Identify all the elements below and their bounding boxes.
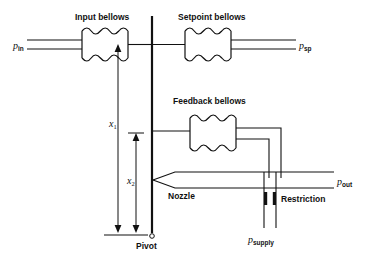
pivot-point <box>150 234 155 239</box>
setpoint-bellows-body <box>185 28 231 61</box>
input-bellows-body <box>82 28 128 61</box>
feedback-bellows-group: Feedback bellows <box>152 96 281 178</box>
input-bellows-group: Input bellows pin <box>12 12 152 61</box>
pneumatic-controller-diagram: Input bellows pin Setpoint bellows psp F… <box>0 0 366 254</box>
diagram-canvas: Input bellows pin Setpoint bellows psp F… <box>0 0 366 254</box>
dimension-x2-group: x2 <box>126 133 144 233</box>
p-out-label: pout <box>336 176 353 188</box>
p-in-label: pin <box>12 40 24 52</box>
setpoint-bellows-group: Setpoint bellows psp <box>152 12 312 61</box>
x1-arrowhead-top <box>115 44 122 52</box>
nozzle-label: Nozzle <box>168 191 195 201</box>
supply-restriction-group: Restriction psupply <box>247 172 325 247</box>
feedback-bellows-body <box>190 115 236 151</box>
p-supply-label: psupply <box>247 234 274 247</box>
feedback-bellows-label: Feedback bellows <box>173 96 246 106</box>
x2-arrowhead-bottom <box>133 225 140 233</box>
nozzle-taper-upper <box>153 172 334 180</box>
restriction-label: Restriction <box>281 194 325 204</box>
nozzle-taper-lower <box>153 180 334 188</box>
x1-label: x1 <box>108 118 117 130</box>
setpoint-bellows-label: Setpoint bellows <box>178 12 246 22</box>
feedback-pipe-upper <box>236 128 281 178</box>
x1-arrowhead-bottom <box>115 225 122 233</box>
x2-arrowhead-top <box>133 133 140 141</box>
pivot-label: Pivot <box>136 241 157 251</box>
p-sp-label: psp <box>298 40 312 53</box>
x2-label: x2 <box>126 175 135 187</box>
input-bellows-label: Input bellows <box>75 12 130 22</box>
dimension-x1-group: x1 <box>108 44 121 233</box>
